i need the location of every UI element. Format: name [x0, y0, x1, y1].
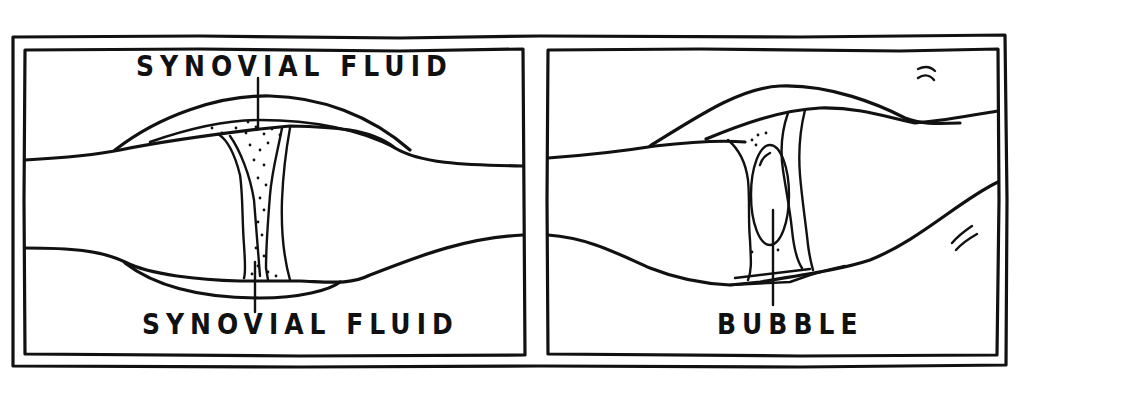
bubble-highlight: [760, 153, 770, 165]
synovial-fluid-top-label: SYNOVIAL FLUID: [136, 51, 453, 83]
motion-mark-upper: [918, 67, 935, 71]
bubble-shape: [751, 145, 789, 245]
left-joint: [25, 78, 523, 312]
motion-mark-lower: [952, 226, 972, 243]
synovial-fluid-bottom-label: SYNOVIAL FLUID: [142, 309, 459, 341]
bubble-label: BUBBLE: [717, 309, 863, 341]
right-joint: [548, 67, 998, 305]
joint-diagram: SYNOVIAL FLUID SYNOVIAL FLUID BUBBLE: [0, 0, 1132, 397]
